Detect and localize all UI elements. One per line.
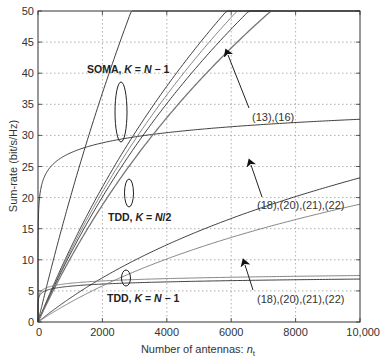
y-tick-label: 10	[22, 254, 34, 266]
y-tick-label: 0	[28, 316, 34, 328]
tdd-half-group-label: TDD, K = N/2	[108, 211, 171, 223]
y-tick-label: 5	[28, 285, 34, 297]
x-tick-label: 8000	[283, 326, 307, 338]
x-tick-label: 6000	[219, 326, 243, 338]
y-axis-label: Sum-rate (bit/s/Hz)	[7, 120, 19, 212]
y-tick-label: 30	[22, 129, 34, 141]
x-tick-label: 4000	[155, 326, 179, 338]
y-tick-label: 15	[22, 223, 34, 235]
sum-rate-chart: 05101520253035404550 0200040006000800010…	[0, 0, 381, 360]
tdd-full-group-label: TDD, K = N − 1	[107, 292, 180, 304]
x-tick-label: 2000	[90, 326, 114, 338]
y-tick-label: 25	[22, 161, 34, 173]
y-tick-label: 20	[22, 192, 34, 204]
tdd-full-equation-ref: (18),(20),(21),(22)	[257, 293, 344, 305]
x-tick-label: 10,000	[346, 326, 380, 338]
y-tick-label: 45	[22, 36, 34, 48]
soma-equation-ref: (13),(16)	[252, 111, 294, 123]
y-tick-label: 40	[22, 67, 34, 79]
tdd-half-equation-ref: (18),(20),(21),(22)	[257, 199, 344, 211]
x-tick-label: 0	[36, 326, 42, 338]
y-tick-label: 50	[22, 5, 34, 17]
y-tick-label: 35	[22, 98, 34, 110]
soma-group-label: SOMA, K = N − 1	[87, 63, 169, 75]
